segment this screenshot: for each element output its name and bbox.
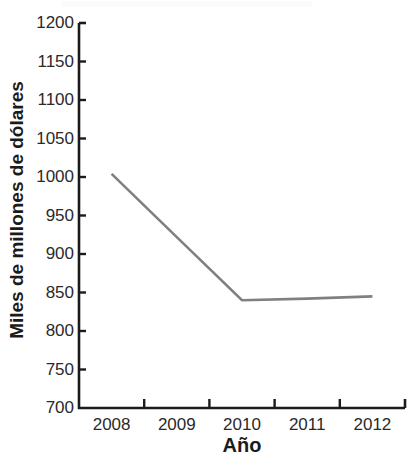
plot-canvas bbox=[0, 0, 409, 467]
chart-figure: Miles de millones de dólares 70075080085… bbox=[0, 0, 409, 467]
axis-lines bbox=[79, 23, 405, 408]
data-series-group bbox=[112, 174, 373, 300]
x-tick-marks bbox=[144, 399, 340, 408]
x-axis-title: Año bbox=[79, 434, 405, 457]
